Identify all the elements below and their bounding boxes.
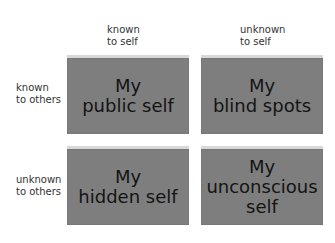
quadrant-public-self: My public self — [67, 55, 189, 134]
quadrant-blind-spots-text: My blind spots — [213, 76, 311, 116]
quadrant-public-self-text: My public self — [82, 76, 174, 116]
quadrant-blind-spots: My blind spots — [201, 55, 323, 134]
quadrant-hidden-self-text: My hidden self — [78, 167, 177, 207]
quadrant-unconscious-self-text: My unconscious self — [206, 157, 317, 217]
column-label-known-to-self: known to self — [107, 24, 140, 48]
quadrant-unconscious-self: My unconscious self — [201, 146, 323, 225]
row-label-known-to-others: known to others — [16, 82, 61, 106]
column-label-unknown-to-self: unknown to self — [240, 24, 285, 48]
row-label-unknown-to-others: unknown to others — [16, 174, 61, 198]
quadrant-hidden-self: My hidden self — [67, 146, 189, 225]
